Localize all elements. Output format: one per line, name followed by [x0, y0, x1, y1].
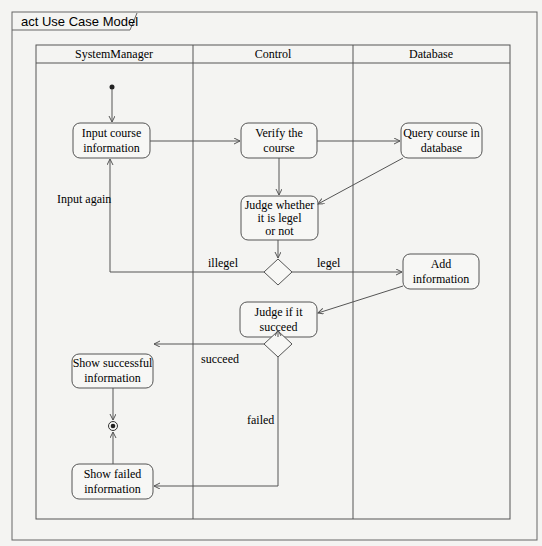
svg-text:Show failed: Show failed [84, 467, 142, 481]
svg-text:Judge if it: Judge if it [255, 305, 304, 319]
svg-text:or not: or not [265, 224, 294, 238]
edge-label-input-again: Input again [57, 192, 111, 206]
node-show-failed: Show failed information [72, 464, 153, 499]
frame-title: act Use Case Model [21, 14, 138, 29]
edge-label-legel: legel [317, 256, 341, 270]
svg-text:Show successful: Show successful [73, 356, 153, 370]
svg-text:Query course in: Query course in [403, 126, 480, 140]
node-query-course: Query course in database [401, 123, 482, 158]
svg-text:information: information [413, 272, 470, 286]
final-node [109, 422, 118, 431]
initial-node [110, 85, 115, 90]
svg-text:information: information [83, 141, 140, 155]
svg-text:Add: Add [431, 257, 452, 271]
node-input-course: Input course information [73, 123, 150, 158]
svg-text:database: database [421, 141, 462, 155]
lane-header-systemmanager: SystemManager [75, 47, 153, 61]
svg-text:Judge whether: Judge whether [245, 198, 315, 212]
node-verify-course: Verify the course [241, 123, 317, 158]
edge-label-illegel: illegel [208, 256, 239, 270]
lane-header-control: Control [255, 47, 292, 61]
svg-text:information: information [84, 482, 141, 496]
edge-label-failed: failed [247, 413, 274, 427]
edge-label-succeed: succeed [201, 352, 239, 366]
node-judge-legel: Judge whether it is legel or not [241, 196, 318, 240]
lane-header-database: Database [409, 47, 453, 61]
svg-text:it is legel: it is legel [258, 211, 303, 225]
node-show-successful: Show successful information [72, 354, 153, 388]
edge-add-to-judge-succeed [318, 286, 403, 313]
edge-query-to-judge [318, 158, 403, 204]
decision-node-legel [264, 259, 292, 285]
activity-diagram: act Use Case Model SystemManager Control… [0, 0, 542, 546]
svg-text:information: information [84, 371, 141, 385]
svg-text:Input course: Input course [82, 126, 142, 140]
node-add-information: Add information [403, 254, 479, 289]
svg-text:Verify the: Verify the [255, 126, 303, 140]
svg-text:course: course [263, 141, 294, 155]
